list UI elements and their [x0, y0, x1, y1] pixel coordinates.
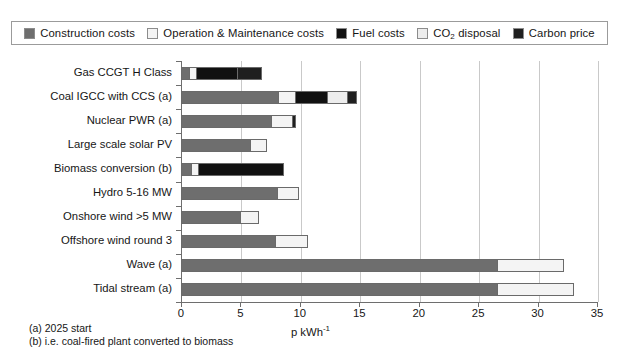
- bar-segment-construction: [181, 187, 277, 200]
- category-label: Offshore wind round 3: [0, 234, 172, 246]
- category-label: Biomass conversion (b): [0, 162, 172, 174]
- category-label-row-6: Onshore wind >5 MW: [0, 210, 172, 224]
- category-label-row-5: Hydro 5-16 MW: [0, 186, 172, 200]
- legend-item-om: Operation & Maintenance costs: [147, 27, 324, 39]
- category-label-row-0: Gas CCGT H Class: [0, 66, 172, 80]
- y-tick-1: [176, 85, 181, 86]
- bar-segment-om: [191, 163, 198, 176]
- y-tick-2: [176, 109, 181, 110]
- bar-segment-construction: [181, 139, 250, 152]
- bar-segment-om: [277, 187, 298, 200]
- footnotes: (a) 2025 start(b) i.e. coal-fired plant …: [29, 322, 233, 348]
- category-label: Onshore wind >5 MW: [0, 210, 172, 222]
- category-label: Tidal stream (a): [0, 282, 172, 294]
- bar-segment-om: [189, 67, 196, 80]
- category-label-row-7: Offshore wind round 3: [0, 234, 172, 248]
- legend-label-om: Operation & Maintenance costs: [163, 27, 324, 39]
- category-label: Gas CCGT H Class: [0, 66, 172, 78]
- legend-swatch-om: [147, 28, 158, 39]
- gridline-35: [598, 61, 599, 302]
- category-label-row-4: Biomass conversion (b): [0, 162, 172, 176]
- legend-item-co2: CO2 disposal: [417, 27, 500, 39]
- y-tick-5: [176, 182, 181, 183]
- y-tick-7: [176, 230, 181, 231]
- bar-segment-om: [271, 115, 291, 128]
- x-tick-label-30: 30: [531, 307, 544, 319]
- legend-label-co2: CO2 disposal: [433, 27, 500, 39]
- bar-segment-construction: [181, 283, 497, 296]
- y-tick-end: [176, 302, 181, 303]
- legend-label-fuel: Fuel costs: [352, 27, 404, 39]
- legend-item-construction: Construction costs: [24, 27, 135, 39]
- x-tick-label-25: 25: [472, 307, 485, 319]
- bar-segment-fuel: [196, 67, 236, 80]
- category-label: Large scale solar PV: [0, 138, 172, 150]
- y-tick-3: [176, 133, 181, 134]
- y-tick-6: [176, 206, 181, 207]
- bar-segment-construction: [181, 235, 275, 248]
- bar-segment-om: [278, 91, 295, 104]
- bar-segment-om: [497, 259, 564, 272]
- y-tick-0: [176, 61, 181, 62]
- legend-item-carbon: Carbon price: [513, 27, 595, 39]
- bar-segment-fuel: [198, 163, 285, 176]
- bar-segment-carbon: [237, 67, 262, 80]
- bar-segment-co2: [327, 91, 347, 104]
- legend-swatch-construction: [24, 28, 35, 39]
- x-tick-label-20: 20: [412, 307, 425, 319]
- y-tick-9: [176, 278, 181, 279]
- legend-item-fuel: Fuel costs: [336, 27, 404, 39]
- x-axis-line: [181, 302, 598, 303]
- footnote-0: (a) 2025 start: [29, 322, 233, 335]
- bar-segment-om: [250, 139, 267, 152]
- category-label-row-2: Nuclear PWR (a): [0, 114, 172, 128]
- bar-segment-construction: [181, 115, 271, 128]
- legend-swatch-fuel: [336, 28, 347, 39]
- footnote-1: (b) i.e. coal-fired plant converted to b…: [29, 335, 233, 348]
- bar-segment-construction: [181, 163, 191, 176]
- x-tick-label-5: 5: [237, 307, 243, 319]
- legend-swatch-co2: [417, 28, 428, 39]
- category-label: Nuclear PWR (a): [0, 114, 172, 126]
- category-label-row-9: Tidal stream (a): [0, 282, 172, 296]
- category-label-row-3: Large scale solar PV: [0, 138, 172, 152]
- x-tick-label-15: 15: [353, 307, 366, 319]
- bar-segment-om: [497, 283, 574, 296]
- category-label: Wave (a): [0, 258, 172, 270]
- category-label-row-1: Coal IGCC with CCS (a): [0, 90, 172, 104]
- chart-legend: Construction costsOperation & Maintenanc…: [11, 21, 608, 45]
- bar-segment-carbon: [347, 91, 357, 104]
- y-tick-8: [176, 254, 181, 255]
- category-label: Hydro 5-16 MW: [0, 186, 172, 198]
- bar-segment-construction: [181, 211, 240, 224]
- x-tick-label-10: 10: [294, 307, 307, 319]
- x-tick-label-0: 0: [178, 307, 184, 319]
- bar-segment-om: [240, 211, 259, 224]
- bar-segment-construction: [181, 67, 189, 80]
- category-label-row-8: Wave (a): [0, 258, 172, 272]
- bar-segment-om: [275, 235, 308, 248]
- bar-segment-construction: [181, 259, 497, 272]
- chart-figure: Construction costsOperation & Maintenanc…: [0, 0, 621, 358]
- legend-swatch-carbon: [513, 28, 524, 39]
- bar-segment-carbon: [292, 115, 297, 128]
- bar-segment-construction: [181, 91, 278, 104]
- category-label: Coal IGCC with CCS (a): [0, 90, 172, 102]
- legend-label-carbon: Carbon price: [529, 27, 595, 39]
- legend-label-construction: Construction costs: [40, 27, 135, 39]
- x-tick-label-35: 35: [591, 307, 604, 319]
- y-tick-4: [176, 157, 181, 158]
- bar-segment-fuel: [295, 91, 327, 104]
